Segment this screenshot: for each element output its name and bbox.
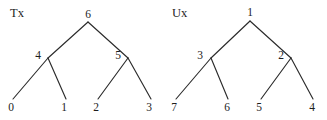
tree-edge-2-4: [291, 58, 313, 99]
node-label-internal-5: 5: [115, 49, 121, 61]
tree-edge-4-1: [48, 58, 66, 99]
node-label-leaf-2: 2: [93, 101, 99, 113]
node-label-root-6: 6: [85, 8, 91, 20]
diagram-canvas: 6450123Tx1327654Ux: [0, 0, 327, 120]
node-label-root-1: 1: [247, 6, 253, 18]
tree-edge-6-4: [48, 22, 88, 58]
tree-edge-1-2: [250, 21, 291, 58]
node-label-leaf-5: 5: [256, 101, 262, 113]
tree-tx: 6450123Tx: [8, 6, 152, 113]
node-label-leaf-0: 0: [8, 101, 14, 113]
tree-node-labels: 1327654: [171, 6, 315, 113]
node-label-internal-2: 2: [278, 49, 284, 61]
node-label-leaf-3: 3: [146, 101, 152, 113]
node-label-leaf-1: 1: [61, 101, 67, 113]
tree-edge-5-3: [128, 58, 151, 99]
binary-tree-diagram: 6450123Tx1327654Ux: [0, 0, 327, 120]
tree-edge-5-2: [98, 58, 128, 99]
tree-title-tx: Tx: [10, 6, 25, 20]
tree-ux: 1327654Ux: [171, 6, 315, 113]
tree-edges: [13, 22, 151, 99]
node-label-internal-3: 3: [197, 49, 203, 61]
node-label-leaf-7: 7: [171, 101, 177, 113]
tree-edge-3-6: [211, 58, 228, 99]
tree-edge-1-3: [211, 21, 250, 58]
tree-edge-4-0: [13, 58, 48, 99]
tree-edge-3-7: [176, 58, 211, 99]
node-label-internal-4: 4: [35, 49, 41, 61]
tree-edge-2-5: [261, 58, 291, 99]
tree-title-ux: Ux: [172, 6, 188, 20]
tree-edge-6-5: [88, 22, 128, 58]
tree-node-labels: 6450123: [8, 8, 152, 113]
node-label-leaf-6: 6: [224, 101, 230, 113]
node-label-leaf-4: 4: [309, 101, 315, 113]
